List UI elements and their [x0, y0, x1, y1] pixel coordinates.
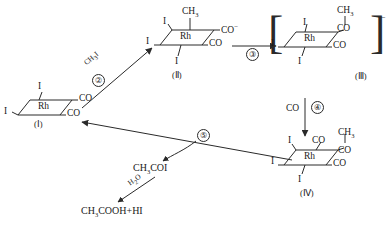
structure-IV-lower-carbonyl: CO: [333, 159, 346, 169]
structure-IV-methyl-subscript: 3: [351, 132, 354, 139]
diagram-bond-and-arrow-layer: [0, 0, 392, 232]
structure-III-left-iodine: I: [271, 39, 274, 49]
step-5-number: ⑤: [197, 129, 210, 142]
structure-II-bottom-iodine: I: [175, 57, 178, 67]
structure-II-methyl: CH3: [182, 7, 198, 18]
step-3-number: ③: [246, 48, 259, 61]
structure-III-label: (Ⅲ): [355, 72, 367, 81]
acetyl-iodide-main: CH: [133, 162, 147, 173]
structure-II-metal-center: Rh: [180, 32, 191, 42]
structure-III-methyl-subscript: 3: [350, 10, 353, 17]
structure-IV-methyl: CH3: [338, 128, 354, 139]
structure-I-label: (Ⅰ): [34, 120, 43, 129]
structure-III-lower-carbonyl: CO: [333, 41, 346, 51]
structure-III-bottom-iodine: I: [298, 57, 301, 67]
reaction-scheme-diagram: I I Rh CO CO (Ⅰ) CH3 I I Rh CO− CO I (Ⅱ)…: [0, 0, 392, 232]
structure-IV-acyl-carbonyl: CO: [338, 146, 351, 156]
arrow-to-acetyl-iodide: [163, 141, 196, 161]
structure-IV-bottom-iodine: I: [298, 175, 301, 185]
structure-IV-metal-center: Rh: [304, 152, 315, 162]
structure-II-upper-carbonyl-text: CO: [221, 25, 234, 35]
structure-II-upper-carbonyl: CO−: [221, 24, 238, 36]
structure-II-methyl-subscript: 3: [195, 11, 198, 18]
structure-II-left-iodine: I: [146, 37, 149, 47]
structure-II-lower-carbonyl: CO: [209, 39, 222, 49]
structure-IV-methyl-text: CH: [338, 127, 351, 137]
structure-IV-left-iodine: I: [271, 157, 274, 167]
structure-I-upper-carbonyl: CO: [79, 94, 92, 104]
structure-III-left-bracket: [: [268, 6, 283, 59]
step-4-number: ④: [311, 101, 324, 114]
structure-II-methyl-text: CH: [182, 6, 195, 16]
structure-I-metal-center: Rh: [38, 102, 49, 112]
step-4-reagent-label: CO: [286, 104, 299, 114]
structure-III-methyl-text: CH: [337, 5, 350, 15]
structure-IV-upper-left-iodine: I: [288, 136, 291, 146]
structure-IV-label: (Ⅳ): [300, 189, 314, 198]
structure-II-upper-left-iodine: I: [163, 17, 166, 27]
structure-II-label: (Ⅱ): [172, 71, 182, 80]
structure-III-metal-center: Rh: [304, 34, 315, 44]
acetic-acid-main: CH: [81, 205, 95, 216]
structure-III-acyl-carbonyl: CO: [337, 24, 350, 34]
structure-III-methyl: CH3: [337, 6, 353, 17]
step-2-number: ②: [92, 74, 105, 87]
structure-II-carbonyl-charge: −: [234, 23, 238, 31]
acetic-acid-tail: COOH+HI: [98, 205, 143, 216]
acetyl-iodide-tail: COI: [150, 162, 167, 173]
arrow-step-5: [82, 122, 292, 160]
product-acetic-acid: CH3COOH+HI: [81, 205, 143, 218]
structure-I-lower-carbonyl: CO: [67, 109, 80, 119]
structure-IV-top-carbonyl: CO: [312, 136, 325, 146]
structure-III-upper-left-iodine: I: [303, 18, 306, 28]
structure-I-left-iodine: I: [4, 107, 7, 117]
structure-III-charge: −: [381, 14, 386, 22]
structure-I-top-iodine: I: [38, 82, 41, 92]
